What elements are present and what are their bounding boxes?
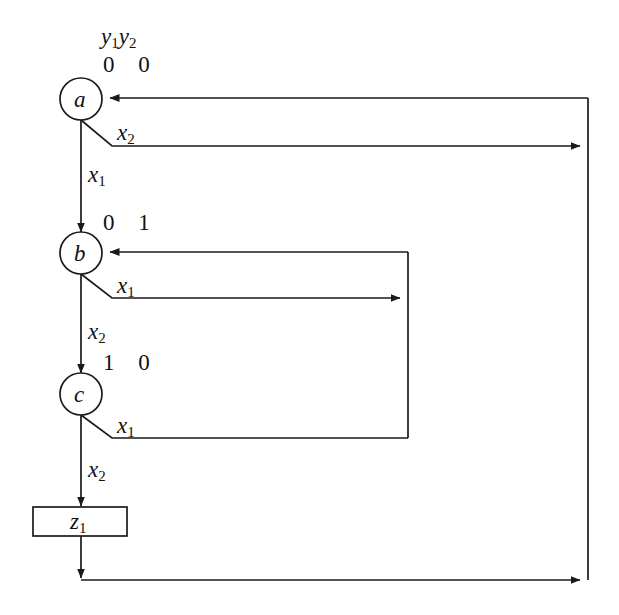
transition-label-c-to-output: x2 [88, 458, 106, 481]
state-b-label: b [74, 242, 86, 265]
transition-label-a-to-b: x1 [88, 163, 106, 186]
transition-label-c-x1: x1 [117, 414, 135, 437]
transition-label-a-x2: x2 [117, 121, 135, 144]
state-diagram-figure: y1y2 0 0 a 0 1 b 1 0 c x1 x2 x2 x1 x2 x1… [0, 0, 619, 615]
transition-label-b-x1: x1 [117, 274, 135, 297]
output-vars-header: y1y2 [101, 25, 136, 48]
diagram-canvas [0, 0, 619, 615]
edge-a-x2-branch [81, 120, 580, 146]
state-a-outputs: 0 0 [103, 53, 159, 76]
state-c-outputs: 1 0 [103, 351, 159, 374]
state-c-label: c [74, 383, 84, 406]
state-b-outputs: 0 1 [103, 211, 159, 234]
transition-label-b-to-c: x2 [88, 320, 106, 343]
state-a-label: a [74, 88, 86, 111]
output-box-label: z1 [70, 510, 86, 533]
